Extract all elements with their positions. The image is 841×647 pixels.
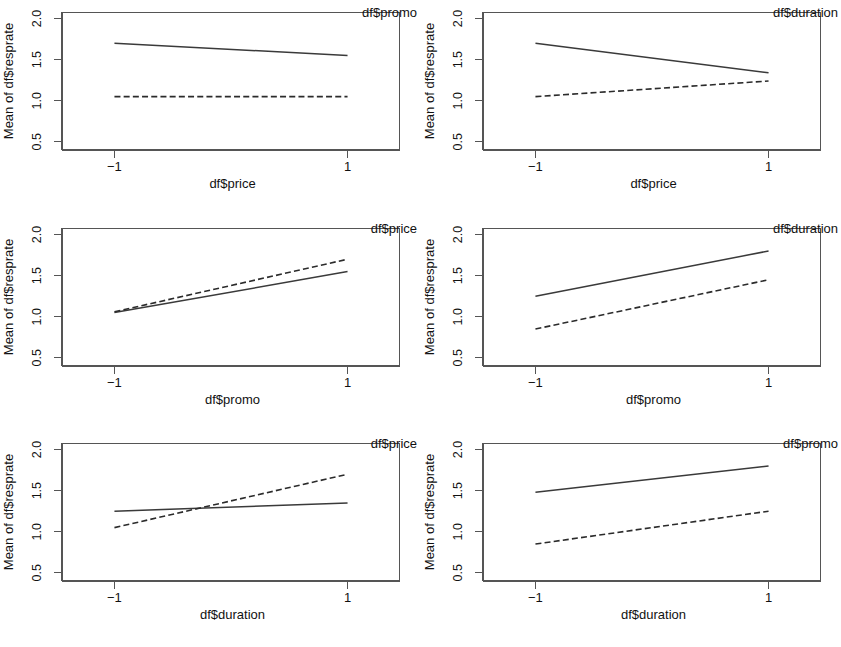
y-axis-tick	[475, 59, 482, 60]
y-axis-tick	[54, 234, 61, 235]
trace-line-solid	[114, 272, 347, 313]
y-axis-tick	[54, 59, 61, 60]
y-axis-tick-label: 0.5	[30, 125, 44, 159]
x-axis-tick	[768, 582, 769, 589]
trace-group-label: df$price	[371, 436, 417, 452]
x-axis-tick-label: −1	[515, 590, 555, 606]
y-axis-tick-label: 0.5	[30, 341, 44, 375]
y-axis-tick-label: 2.0	[30, 2, 44, 36]
x-axis-tick	[114, 367, 115, 374]
x-axis-line	[483, 581, 821, 582]
plot-panel: Mean of df$resprate0.51.01.52.0−11df$dur…	[421, 0, 841, 216]
x-axis-tick-label: −1	[94, 590, 134, 606]
data-layer	[483, 443, 821, 581]
x-axis-tick-label: −1	[515, 375, 555, 391]
trace-line-solid	[535, 251, 768, 296]
y-axis-tick	[475, 531, 482, 532]
data-layer	[483, 228, 821, 366]
y-axis-tick-label: 1.5	[451, 259, 465, 293]
y-axis-tick	[475, 357, 482, 358]
trace-line-dashed	[114, 474, 347, 527]
x-axis-line	[62, 366, 400, 367]
data-layer	[62, 443, 400, 581]
trace-line-dashed	[114, 259, 347, 312]
plot-panel: Mean of df$resprate0.51.01.52.0−11df$dur…	[421, 216, 841, 432]
x-axis-tick	[347, 151, 348, 158]
y-axis-tick	[475, 316, 482, 317]
y-axis-tick-label: 1.0	[451, 515, 465, 549]
y-axis-title: Mean of df$resprate	[0, 1, 18, 161]
y-axis-tick-label: 2.0	[30, 433, 44, 467]
data-layer	[62, 228, 400, 366]
trace-line-dashed	[535, 280, 768, 329]
trace-line-dashed	[535, 81, 768, 97]
y-axis-tick	[54, 572, 61, 573]
x-axis-line	[483, 366, 821, 367]
y-axis-tick	[54, 316, 61, 317]
x-axis-title: df$price	[60, 176, 405, 192]
y-axis-tick	[475, 449, 482, 450]
data-layer	[62, 12, 400, 150]
y-axis-tick	[54, 357, 61, 358]
trace-line-solid	[114, 43, 347, 55]
x-axis-tick-label: 1	[328, 159, 368, 175]
plot-panel: Mean of df$resprate0.51.01.52.0−11df$pri…	[0, 216, 420, 432]
plot-panel: Mean of df$resprate0.51.01.52.0−11df$pro…	[0, 0, 420, 216]
y-axis-tick-label: 0.5	[451, 341, 465, 375]
y-axis-tick-label: 1.5	[30, 259, 44, 293]
y-axis-tick-label: 1.5	[30, 474, 44, 508]
y-axis-title: Mean of df$resprate	[421, 1, 439, 161]
x-axis-tick-label: 1	[328, 590, 368, 606]
data-layer	[483, 12, 821, 150]
y-axis-tick-label: 1.5	[451, 474, 465, 508]
x-axis-tick-label: 1	[749, 590, 789, 606]
y-axis-tick	[54, 275, 61, 276]
x-axis-tick-label: 1	[749, 375, 789, 391]
y-axis-tick	[54, 490, 61, 491]
y-axis-tick	[475, 572, 482, 573]
x-axis-tick-label: 1	[328, 375, 368, 391]
trace-group-label: df$promo	[362, 5, 417, 21]
x-axis-tick	[347, 367, 348, 374]
x-axis-title: df$duration	[481, 607, 826, 623]
x-axis-tick	[114, 151, 115, 158]
y-axis-tick	[475, 18, 482, 19]
x-axis-line	[483, 150, 821, 151]
x-axis-tick	[535, 367, 536, 374]
y-axis-tick	[54, 100, 61, 101]
y-axis-title: Mean of df$resprate	[421, 432, 439, 592]
y-axis-tick	[475, 234, 482, 235]
trace-line-solid	[114, 503, 347, 511]
plot-panel: Mean of df$resprate0.51.01.52.0−11df$pri…	[0, 431, 420, 647]
interaction-plot-grid: Mean of df$resprate0.51.01.52.0−11df$pro…	[0, 0, 841, 647]
y-axis-tick	[475, 275, 482, 276]
y-axis-tick	[54, 141, 61, 142]
y-axis-tick-label: 2.0	[30, 218, 44, 252]
x-axis-tick-label: −1	[94, 375, 134, 391]
x-axis-tick	[768, 367, 769, 374]
x-axis-title: df$duration	[60, 607, 405, 623]
y-axis-tick	[54, 18, 61, 19]
y-axis-tick-label: 1.5	[30, 43, 44, 77]
x-axis-title: df$promo	[481, 392, 826, 408]
y-axis-title: Mean of df$resprate	[0, 432, 18, 592]
y-axis-tick-label: 1.0	[30, 84, 44, 118]
x-axis-title: df$promo	[60, 392, 405, 408]
x-axis-tick-label: −1	[515, 159, 555, 175]
x-axis-tick	[768, 151, 769, 158]
y-axis-tick-label: 1.0	[30, 515, 44, 549]
x-axis-title: df$price	[481, 176, 826, 192]
y-axis-tick	[475, 100, 482, 101]
x-axis-tick	[535, 582, 536, 589]
y-axis-tick-label: 1.5	[451, 43, 465, 77]
x-axis-tick	[114, 582, 115, 589]
y-axis-tick-label: 2.0	[451, 218, 465, 252]
trace-group-label: df$duration	[773, 5, 838, 21]
x-axis-tick	[347, 582, 348, 589]
y-axis-tick-label: 2.0	[451, 2, 465, 36]
y-axis-tick-label: 2.0	[451, 433, 465, 467]
x-axis-line	[62, 150, 400, 151]
y-axis-tick-label: 0.5	[451, 556, 465, 590]
y-axis-tick-label: 1.0	[451, 300, 465, 334]
y-axis-title: Mean of df$resprate	[421, 217, 439, 377]
